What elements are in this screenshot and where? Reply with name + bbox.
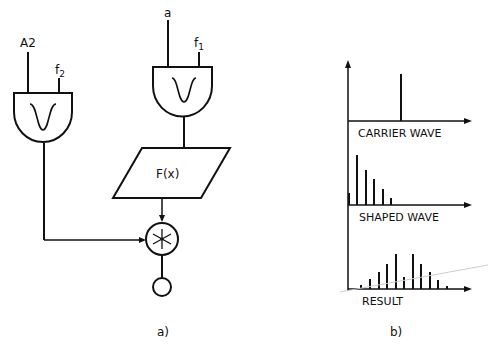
bell-curve-icon bbox=[172, 78, 196, 102]
oscillator-body-left bbox=[14, 93, 72, 142]
carrier-label: CARRIER WAVE bbox=[358, 127, 441, 140]
amp-label-right: a bbox=[164, 6, 171, 20]
caption-a: a) bbox=[157, 325, 169, 339]
bell-curve-icon bbox=[30, 104, 56, 130]
diagram-canvas: A2 f2 a f1 F(x) a) CARRIER WAVE SHAPED W… bbox=[0, 0, 488, 350]
function-label: F(x) bbox=[156, 167, 179, 181]
oscillator-body-right bbox=[153, 67, 212, 117]
oscillator-left bbox=[14, 52, 72, 142]
oscillator-right bbox=[153, 20, 212, 117]
result-spectrum-lines bbox=[361, 254, 447, 289]
caption-b: b) bbox=[390, 325, 402, 339]
freq-label-left: f2 bbox=[55, 63, 65, 79]
freq-label-right: f1 bbox=[194, 36, 204, 52]
carrier-arrowhead bbox=[464, 118, 472, 124]
amp-label-left: A2 bbox=[20, 36, 36, 50]
shaped-arrowhead bbox=[464, 202, 472, 208]
output-circle-icon bbox=[153, 278, 171, 296]
left-arrowhead bbox=[139, 237, 146, 243]
y-axis-arrowhead bbox=[345, 60, 351, 68]
shaped-spectrum-lines bbox=[349, 155, 391, 205]
function-arrowhead bbox=[159, 215, 165, 222]
result-label: RESULT bbox=[362, 295, 403, 308]
multiplier-center-dot bbox=[160, 237, 163, 240]
shaped-label: SHAPED WAVE bbox=[359, 211, 439, 224]
result-arrowhead bbox=[464, 286, 472, 292]
